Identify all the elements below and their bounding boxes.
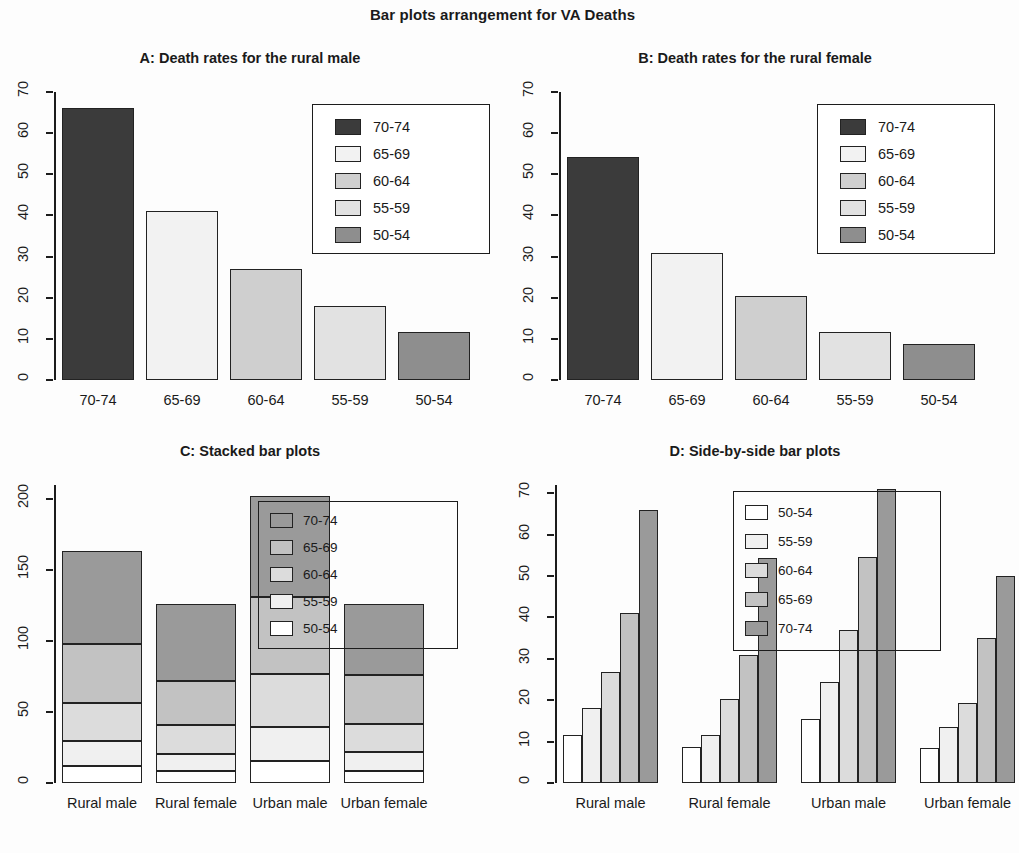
y-axis-tick xyxy=(46,297,53,299)
y-axis-tick xyxy=(547,492,554,494)
legend-label-60-64: 60-64 xyxy=(878,174,915,189)
bar-55-59 xyxy=(314,306,386,380)
legend-row: 65-69 xyxy=(745,592,813,607)
y-axis-tick xyxy=(551,297,558,299)
legend-swatch-60-64 xyxy=(335,173,361,189)
legend-row: 50-54 xyxy=(270,621,338,636)
panel-a: A: Death rates for the rural male 010203… xyxy=(0,50,500,430)
bar-50-54 xyxy=(903,344,975,380)
y-axis-tick xyxy=(547,658,554,660)
y-axis-tick xyxy=(46,91,53,93)
stack-segment-Urban-female-50-54 xyxy=(344,771,424,783)
bar-Rural-male-50-54 xyxy=(563,735,582,783)
stack-segment-Rural-female-70-74 xyxy=(156,604,236,681)
y-axis-tick xyxy=(46,640,53,642)
y-axis-tick xyxy=(547,616,554,618)
y-axis-tick-label: 20 xyxy=(516,674,532,720)
legend-row: 60-64 xyxy=(745,563,813,578)
y-axis-tick xyxy=(46,711,53,713)
stack-segment-Rural-male-60-64 xyxy=(62,703,142,741)
legend-swatch-70-74 xyxy=(335,119,361,135)
bar-Urban-male-50-54 xyxy=(801,719,820,783)
stack-segment-Urban-female-55-59 xyxy=(344,752,424,771)
panel-legend: 70-7465-6960-6455-5950-54 xyxy=(817,104,995,254)
legend-row: 70-74 xyxy=(335,119,410,135)
legend-swatch-55-59 xyxy=(745,534,768,549)
legend-label-50-54: 50-54 xyxy=(373,228,410,243)
legend-row: 55-59 xyxy=(335,200,410,216)
bar-Rural-female-60-64 xyxy=(720,699,739,783)
y-axis-tick-label: 200 xyxy=(15,473,31,519)
legend-label-60-64: 60-64 xyxy=(373,174,410,189)
bar-Rural-female-50-54 xyxy=(682,747,701,783)
y-axis-tick-label: 50 xyxy=(516,550,532,596)
y-axis-tick-label: 30 xyxy=(15,231,31,277)
legend-row: 50-54 xyxy=(840,227,915,243)
y-axis-tick-label: 0 xyxy=(520,354,536,400)
y-axis-tick xyxy=(547,741,554,743)
y-axis-tick xyxy=(551,379,558,381)
bar-Rural-male-70-74 xyxy=(639,510,658,783)
panel-legend: 70-7465-6960-6455-5950-54 xyxy=(312,104,490,254)
legend-row: 60-64 xyxy=(270,567,338,582)
x-axis-tick-label: Urban female xyxy=(328,795,440,811)
stack-segment-Urban-female-65-69 xyxy=(344,675,424,725)
panel-b-plot-area: 01020304050607070-7465-6960-6455-5950-54… xyxy=(505,50,1005,430)
y-axis-tick-label: 0 xyxy=(516,757,532,803)
legend-swatch-50-54 xyxy=(840,227,866,243)
y-axis-tick-label: 50 xyxy=(15,686,31,732)
stack-segment-Rural-male-55-59 xyxy=(62,741,142,767)
y-axis-tick xyxy=(551,338,558,340)
y-axis-tick-label: 50 xyxy=(15,148,31,194)
legend-label-50-54: 50-54 xyxy=(878,228,915,243)
stack-segment-Urban-male-55-59 xyxy=(250,727,330,761)
y-axis-tick-label: 10 xyxy=(15,313,31,359)
y-axis-tick-label: 20 xyxy=(15,272,31,318)
legend-swatch-65-69 xyxy=(745,592,768,607)
legend-swatch-65-69 xyxy=(335,146,361,162)
legend-swatch-60-64 xyxy=(745,563,768,578)
y-axis-tick-label: 10 xyxy=(520,313,536,359)
legend-label-55-59: 55-59 xyxy=(303,595,338,609)
legend-swatch-65-69 xyxy=(840,146,866,162)
figure-main-title: Bar plots arrangement for VA Deaths xyxy=(0,6,1005,23)
y-axis-tick-label: 70 xyxy=(516,467,532,513)
bar-70-74 xyxy=(62,108,134,380)
legend-swatch-70-74 xyxy=(745,621,768,636)
legend-row: 70-74 xyxy=(840,119,915,135)
bar-Rural-male-65-69 xyxy=(620,613,639,783)
legend-swatch-60-64 xyxy=(270,567,293,582)
legend-row: 55-59 xyxy=(745,534,813,549)
x-axis-tick-label: 50-54 xyxy=(384,392,484,408)
y-axis-spine xyxy=(559,92,561,380)
bar-Urban-female-65-69 xyxy=(977,638,996,783)
legend-label-65-69: 65-69 xyxy=(303,541,338,555)
y-axis-tick xyxy=(46,569,53,571)
y-axis-tick xyxy=(46,379,53,381)
legend-label-55-59: 55-59 xyxy=(778,535,813,549)
y-axis-tick-label: 40 xyxy=(15,189,31,235)
y-axis-tick xyxy=(551,132,558,134)
legend-label-70-74: 70-74 xyxy=(778,622,813,636)
bar-65-69 xyxy=(651,253,723,380)
legend-label-55-59: 55-59 xyxy=(878,201,915,216)
y-axis-tick-label: 30 xyxy=(520,231,536,277)
y-axis-tick-label: 50 xyxy=(520,148,536,194)
y-axis-tick xyxy=(46,498,53,500)
y-axis-tick xyxy=(46,782,53,784)
legend-row: 60-64 xyxy=(335,173,410,189)
bar-Rural-male-55-59 xyxy=(582,708,601,783)
legend-label-65-69: 65-69 xyxy=(878,147,915,162)
legend-swatch-55-59 xyxy=(270,594,293,609)
stack-segment-Rural-male-65-69 xyxy=(62,644,142,702)
y-axis-tick-label: 0 xyxy=(15,354,31,400)
panel-a-plot-area: 01020304050607070-7465-6960-6455-5950-54… xyxy=(0,50,500,430)
panel-d-plot-area: 010203040506070Rural maleRural femaleUrb… xyxy=(505,443,1005,853)
bar-65-69 xyxy=(146,211,218,380)
stack-segment-Urban-male-60-64 xyxy=(250,674,330,727)
y-axis-tick xyxy=(46,173,53,175)
y-axis-spine xyxy=(555,485,557,783)
bar-Urban-male-55-59 xyxy=(820,682,839,783)
legend-swatch-50-54 xyxy=(270,621,293,636)
y-axis-tick-label: 70 xyxy=(520,66,536,112)
